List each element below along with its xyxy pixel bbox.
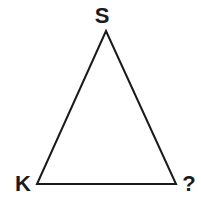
diagram-canvas: S K ?	[0, 0, 201, 199]
vertex-label-bottom-left: K	[15, 171, 31, 196]
triangle-shape	[37, 31, 176, 184]
vertex-label-top: S	[95, 3, 110, 28]
triangle-diagram: S K ?	[0, 0, 201, 199]
vertex-label-bottom-right: ?	[182, 171, 195, 196]
